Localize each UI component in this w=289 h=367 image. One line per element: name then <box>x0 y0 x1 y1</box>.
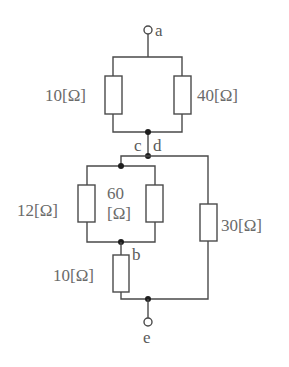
middle-junction-dot-icon <box>118 163 124 169</box>
resistor-r1-icon <box>105 76 122 114</box>
resistor-r2-icon <box>174 76 191 114</box>
top-rail-upper <box>113 57 182 76</box>
resistor-r3-icon <box>78 185 95 222</box>
right-branch: 30[Ω] <box>200 204 262 241</box>
terminal-e-icon <box>144 318 152 326</box>
node-c-label: c <box>134 136 142 155</box>
node-d-label: d <box>153 136 162 155</box>
resistor-r4-label-unit: [Ω] <box>107 204 131 223</box>
node-c-d: c d <box>134 129 162 159</box>
terminal-a: a <box>144 21 163 57</box>
wire-d-rail <box>121 156 208 204</box>
resistor-r6-label: 30[Ω] <box>221 216 262 235</box>
terminal-a-label: a <box>155 21 163 40</box>
node-b-label: b <box>132 245 141 264</box>
resistor-r1-label: 10[Ω] <box>45 86 86 105</box>
resistor-r6-icon <box>200 204 217 241</box>
terminal-a-icon <box>144 26 152 34</box>
resistor-r4-icon <box>146 185 163 222</box>
top-parallel-branch: 10[Ω] 40[Ω] <box>45 57 238 132</box>
resistor-r3-label: 12[Ω] <box>17 201 58 220</box>
resistor-r2-label: 40[Ω] <box>197 86 238 105</box>
resistor-r5-label: 10[Ω] <box>53 266 94 285</box>
lower-branch: b 10[Ω] <box>53 239 208 299</box>
node-c-dot-icon <box>145 129 151 135</box>
circuit-diagram: a 10[Ω] 40[Ω] c d 12[Ω] 60 [Ω] b 10[Ω] <box>0 0 289 367</box>
middle-parallel-branch: 12[Ω] 60 [Ω] <box>17 163 163 242</box>
terminal-e: e <box>143 296 152 347</box>
resistor-r4-label-value: 60 <box>107 184 124 203</box>
resistor-r5-icon <box>113 255 129 292</box>
terminal-e-label: e <box>143 328 151 347</box>
